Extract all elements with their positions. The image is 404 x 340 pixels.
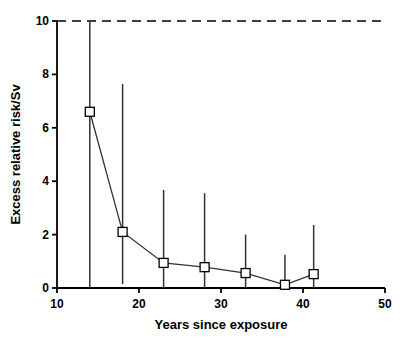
x-axis-tick-label: 10 <box>50 297 64 311</box>
chart-container: 02468101020304050Years since exposureExc… <box>0 0 404 340</box>
data-point-marker[interactable] <box>200 263 209 272</box>
y-axis-tick-label: 4 <box>42 174 49 188</box>
data-point-marker[interactable] <box>159 258 168 267</box>
x-axis-tick-label: 50 <box>378 297 392 311</box>
x-axis-tick-label: 40 <box>296 297 310 311</box>
data-point-marker[interactable] <box>118 227 127 236</box>
y-axis-tick-label: 8 <box>42 67 49 81</box>
y-axis-tick-label: 0 <box>42 281 49 295</box>
x-axis-title: Years since exposure <box>155 317 288 332</box>
x-axis-tick-label: 30 <box>214 297 228 311</box>
excess-relative-risk-chart: 02468101020304050Years since exposureExc… <box>0 0 404 340</box>
data-point-marker[interactable] <box>309 270 318 279</box>
y-axis-title: Excess relative risk/Sv <box>8 84 23 225</box>
y-axis-tick-label: 10 <box>36 14 50 28</box>
chart-background <box>0 0 404 340</box>
data-point-marker[interactable] <box>85 107 94 116</box>
y-axis-tick-label: 2 <box>42 228 49 242</box>
data-point-marker[interactable] <box>280 280 289 289</box>
data-point-marker[interactable] <box>241 269 250 278</box>
x-axis-tick-label: 20 <box>132 297 146 311</box>
y-axis-tick-label: 6 <box>42 121 49 135</box>
